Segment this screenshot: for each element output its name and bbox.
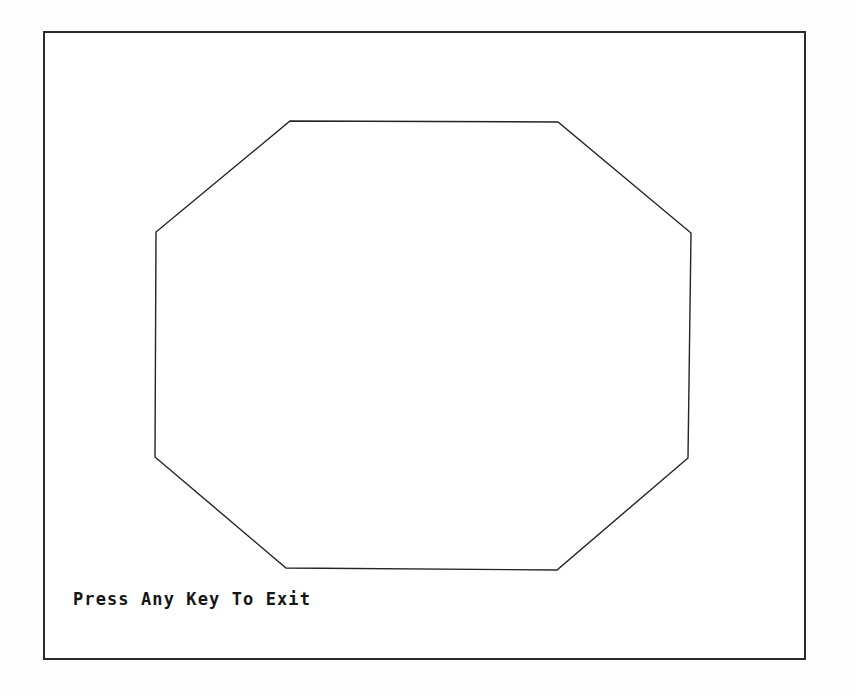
graphics-viewport-frame: [43, 31, 806, 660]
screen-root: Press Any Key To Exit: [0, 0, 855, 698]
exit-prompt-text: Press Any Key To Exit: [73, 589, 311, 609]
